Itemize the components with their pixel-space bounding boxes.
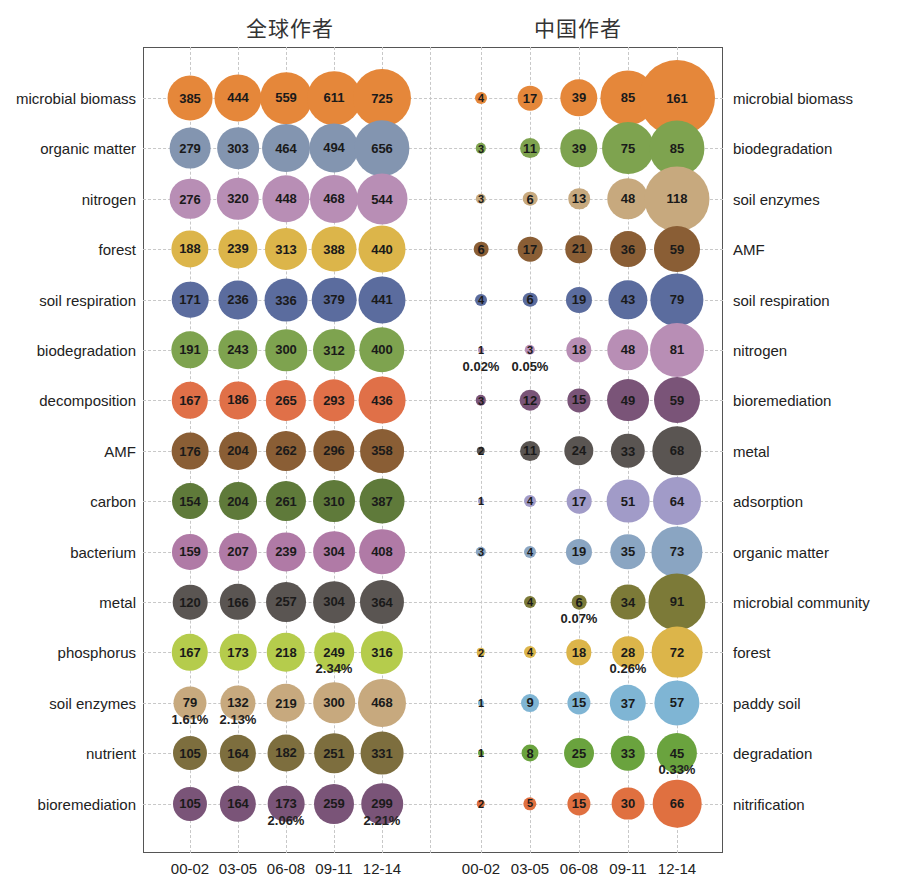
data-bubble: 49: [607, 379, 649, 421]
data-bubble: 207: [219, 533, 257, 571]
data-bubble: 251: [314, 733, 354, 773]
data-bubble: 468: [310, 175, 358, 223]
data-bubble: 6: [523, 292, 538, 307]
data-bubble: 408: [359, 529, 405, 575]
row-label-right: microbial community: [733, 594, 870, 611]
data-bubble: 358: [360, 429, 404, 473]
data-bubble: 261: [266, 481, 306, 521]
row-label-left: soil respiration: [39, 291, 136, 308]
data-bubble: 259: [314, 784, 354, 824]
data-bubble: 34: [611, 585, 646, 620]
data-bubble: 236: [218, 280, 257, 319]
data-bubble: 385: [168, 76, 213, 121]
percent-annotation: 0.05%: [512, 359, 549, 374]
data-bubble: 1: [478, 700, 484, 706]
row-label-right: soil enzymes: [733, 190, 820, 207]
data-bubble: 300: [265, 329, 307, 371]
row-label-left: AMF: [104, 442, 136, 459]
data-bubble: 387: [360, 479, 405, 524]
data-bubble: 186: [219, 382, 256, 419]
row-label-right: nitrogen: [733, 342, 787, 359]
data-bubble: 331: [361, 732, 404, 775]
x-tick-right: 12-14: [658, 860, 696, 877]
data-bubble: 19: [566, 287, 592, 313]
data-bubble: 279: [170, 128, 211, 169]
data-bubble: 8: [522, 745, 539, 762]
data-bubble: 173: [220, 634, 257, 671]
x-tick-left: 00-02: [171, 860, 209, 877]
data-bubble: 494: [309, 124, 358, 173]
left-panel-title: 全球作者: [246, 12, 334, 42]
data-bubble: 4: [524, 546, 536, 558]
x-tick-left: 12-14: [363, 860, 401, 877]
data-bubble: 64: [653, 477, 701, 525]
data-bubble: 59: [654, 226, 700, 272]
data-bubble: 300: [313, 682, 355, 724]
data-bubble: 1: [478, 498, 484, 504]
data-bubble: 725: [353, 69, 411, 127]
data-bubble: 73: [651, 526, 702, 577]
data-bubble: 441: [358, 276, 405, 323]
data-bubble: 17: [518, 86, 543, 111]
data-bubble: 313: [265, 228, 307, 270]
data-bubble: 30: [612, 787, 645, 820]
data-bubble: 105: [173, 787, 207, 821]
data-bubble: 36: [610, 231, 646, 267]
data-bubble: 440: [359, 226, 406, 273]
percent-annotation: 2.13%: [220, 712, 257, 727]
data-bubble: 464: [262, 124, 310, 172]
data-bubble: 4: [475, 294, 487, 306]
data-bubble: 12: [520, 390, 541, 411]
data-bubble: 388: [312, 227, 357, 272]
row-label-left: microbial biomass: [16, 90, 136, 107]
data-bubble: 204: [219, 482, 257, 520]
data-bubble: 379: [312, 277, 357, 322]
data-bubble: 72: [652, 627, 703, 678]
data-bubble: 444: [214, 74, 261, 121]
data-bubble: 4: [524, 646, 536, 658]
data-bubble: 364: [360, 580, 404, 624]
row-label-right: metal: [733, 442, 770, 459]
row-label-right: bioremediation: [733, 392, 831, 409]
data-bubble: 257: [266, 582, 306, 622]
percent-annotation: 0.07%: [561, 611, 598, 626]
data-bubble: 4: [524, 596, 536, 608]
data-bubble: 303: [217, 128, 259, 170]
data-bubble: 336: [265, 278, 308, 321]
row-label-right: paddy soil: [733, 694, 801, 711]
data-bubble: 11: [520, 138, 540, 158]
row-label-right: forest: [733, 644, 771, 661]
data-bubble: 262: [266, 431, 306, 471]
percent-annotation: 0.26%: [610, 661, 647, 676]
data-bubble: 105: [173, 736, 207, 770]
data-bubble: 436: [359, 377, 406, 424]
percent-annotation: 1.61%: [172, 712, 209, 727]
x-tick-left: 03-05: [219, 860, 257, 877]
percent-annotation: 2.21%: [364, 813, 401, 828]
row-label-right: degradation: [733, 745, 812, 762]
data-bubble: 544: [357, 173, 408, 224]
data-bubble: 559: [260, 72, 312, 124]
data-bubble: 1: [478, 750, 484, 756]
data-bubble: 468: [358, 679, 406, 727]
data-bubble: 75: [602, 122, 654, 174]
row-label-right: biodegradation: [733, 140, 832, 157]
row-label-left: bioremediation: [38, 795, 136, 812]
data-bubble: 2: [477, 447, 485, 455]
x-tick-right: 03-05: [511, 860, 549, 877]
data-bubble: 25: [564, 738, 594, 768]
row-label-right: adsorption: [733, 493, 803, 510]
row-label-left: forest: [98, 241, 136, 258]
row-label-right: nitrification: [733, 795, 805, 812]
data-bubble: 182: [267, 735, 304, 772]
data-bubble: 17: [567, 489, 592, 514]
data-bubble: 2: [477, 648, 485, 656]
data-bubble: 159: [172, 534, 208, 570]
x-tick-left: 09-11: [315, 860, 352, 877]
row-label-left: metal: [99, 594, 136, 611]
x-tick-right: 00-02: [462, 860, 500, 877]
percent-annotation: 2.34%: [316, 661, 353, 676]
row-label-left: bacterium: [70, 543, 136, 560]
x-tick-right: 06-08: [560, 860, 598, 877]
data-bubble: 91: [648, 573, 705, 630]
